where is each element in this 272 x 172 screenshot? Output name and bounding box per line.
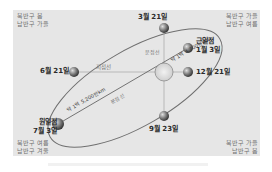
corner-label: 북반구 가을: [226, 12, 258, 20]
december-label: 12월 21일: [196, 68, 230, 77]
corner-label: 남반구 봄: [226, 147, 258, 155]
perihelion-label: 근일점 1월 3일: [196, 37, 220, 55]
corner-label: 북반구 여름: [17, 139, 49, 147]
corner-label: 북반구 가을: [226, 139, 258, 147]
corner-top-left: 북반구 봄 남반구 가을: [17, 12, 49, 28]
corner-label: 남반구 가을: [17, 20, 49, 28]
earth-september-icon: [159, 111, 169, 121]
aphelion-date: 7월 3일: [33, 127, 57, 136]
corner-label: 남반구 겨울: [17, 147, 49, 155]
sun-icon: [155, 63, 173, 81]
aphelion-label: 원일점 7월 3일: [33, 118, 57, 136]
corner-top-right: 북반구 가을 남반구 여름: [226, 12, 258, 28]
earth-june-icon: [69, 67, 79, 77]
march-label: 3월 21일: [138, 13, 167, 22]
corner-bottom-right: 북반구 가을 남반구 봄: [226, 139, 258, 155]
june-label: 6월 21일: [40, 67, 69, 76]
aphelion-distance-label: 약 1억 5,200만km: [66, 86, 107, 114]
corner-label: 북반구 봄: [17, 12, 49, 20]
equinox-line-label: 분점선: [145, 49, 160, 55]
caption-placeholder: [48, 163, 208, 166]
orbit-ellipse: [31, 6, 239, 170]
solstice-line-label: 지점선: [96, 63, 111, 71]
september-label: 9월 23일: [149, 125, 178, 134]
earth-march-icon: [159, 23, 169, 33]
apsis-line: [58, 48, 188, 124]
aphelion-name: 원일점: [33, 118, 57, 127]
corner-label: 남반구 여름: [226, 20, 258, 28]
corner-bottom-left: 북반구 여름 남반구 겨울: [17, 139, 49, 155]
perihelion-date: 1월 3일: [196, 46, 220, 55]
perihelion-name: 근일점: [196, 37, 220, 46]
equinox-line-label-2: 분점선: [110, 92, 126, 105]
earth-december-icon: [183, 67, 193, 77]
